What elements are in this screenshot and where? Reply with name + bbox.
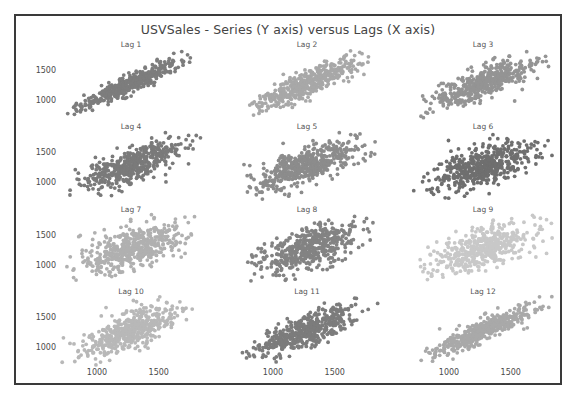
scatter-panel-lag-11: Lag 1110001500 <box>236 287 378 365</box>
plot-area-lag-3 <box>412 49 554 118</box>
y-tick-label: 1000 <box>36 260 56 269</box>
plot-area-lag-9 <box>412 214 554 283</box>
plot-area-lag-10: 1000150010001500 <box>60 296 202 365</box>
plot-area-lag-11: 10001500 <box>236 296 378 365</box>
y-tick-label: 1000 <box>36 178 56 187</box>
y-tick-label: 1500 <box>36 148 56 157</box>
plot-area-lag-6 <box>412 131 554 200</box>
scatter-points-lag-6 <box>412 131 554 200</box>
panel-label-lag-7: Lag 7 <box>60 205 202 214</box>
scatter-panel-lag-5: Lag 5 <box>236 122 378 200</box>
panel-label-lag-11: Lag 11 <box>236 287 378 296</box>
plot-area-lag-8 <box>236 214 378 283</box>
scatter-panel-lag-2: Lag 2 <box>236 40 378 118</box>
y-tick-label: 1000 <box>36 96 56 105</box>
scatter-points-lag-9 <box>412 214 554 283</box>
panel-label-lag-6: Lag 6 <box>412 122 554 131</box>
x-tick-label: 1500 <box>501 368 521 377</box>
panel-label-lag-2: Lag 2 <box>236 40 378 49</box>
panel-label-lag-12: Lag 12 <box>412 287 554 296</box>
x-tick-label: 1500 <box>325 368 345 377</box>
panel-label-lag-9: Lag 9 <box>412 205 554 214</box>
scatter-points-lag-3 <box>412 49 554 118</box>
scatter-panel-lag-6: Lag 6 <box>412 122 554 200</box>
scatter-points-lag-2 <box>236 49 378 118</box>
scatter-points-lag-10 <box>60 296 202 365</box>
x-tick-label: 1500 <box>149 368 169 377</box>
scatter-points-lag-5 <box>236 131 378 200</box>
y-tick-label: 1000 <box>36 342 56 351</box>
y-tick-label: 1500 <box>36 66 56 75</box>
panel-label-lag-3: Lag 3 <box>412 40 554 49</box>
scatter-panel-lag-10: Lag 101000150010001500 <box>60 287 202 365</box>
scatter-points-lag-8 <box>236 214 378 283</box>
panel-label-lag-4: Lag 4 <box>60 122 202 131</box>
scatter-points-lag-12 <box>412 296 554 365</box>
figure-frame: USVSales - Series (Y axis) versus Lags (… <box>14 14 562 385</box>
x-tick-label: 1000 <box>87 368 107 377</box>
plot-area-lag-4: 10001500 <box>60 131 202 200</box>
y-tick-label: 1500 <box>36 230 56 239</box>
panel-label-lag-10: Lag 10 <box>60 287 202 296</box>
scatter-panel-lag-3: Lag 3 <box>412 40 554 118</box>
plot-area-lag-1: 10001500 <box>60 49 202 118</box>
scatter-panel-lag-4: Lag 410001500 <box>60 122 202 200</box>
scatter-panel-lag-12: Lag 1210001500 <box>412 287 554 365</box>
plot-area-lag-5 <box>236 131 378 200</box>
scatter-points-lag-1 <box>60 49 202 118</box>
scatter-panel-lag-7: Lag 710001500 <box>60 205 202 283</box>
plot-area-lag-12: 10001500 <box>412 296 554 365</box>
scatter-points-lag-7 <box>60 214 202 283</box>
plot-area-lag-7: 10001500 <box>60 214 202 283</box>
x-tick-label: 1000 <box>263 368 283 377</box>
panel-label-lag-5: Lag 5 <box>236 122 378 131</box>
scatter-points-lag-11 <box>236 296 378 365</box>
scatter-panel-lag-1: Lag 110001500 <box>60 40 202 118</box>
x-tick-label: 1000 <box>439 368 459 377</box>
scatter-points-lag-4 <box>60 131 202 200</box>
scatter-panel-lag-9: Lag 9 <box>412 205 554 283</box>
scatter-panel-lag-8: Lag 8 <box>236 205 378 283</box>
scatter-panel-grid: Lag 110001500Lag 2Lag 3Lag 410001500Lag … <box>16 40 564 383</box>
chart-title: USVSales - Series (Y axis) versus Lags (… <box>16 22 560 37</box>
plot-area-lag-2 <box>236 49 378 118</box>
y-tick-label: 1500 <box>36 312 56 321</box>
panel-label-lag-1: Lag 1 <box>60 40 202 49</box>
panel-label-lag-8: Lag 8 <box>236 205 378 214</box>
